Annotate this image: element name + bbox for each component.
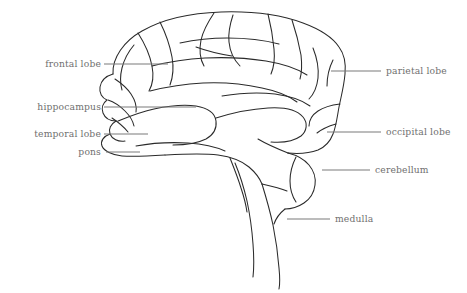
midbrain-detail: [230, 158, 247, 212]
brainstem-posterior-outline: [262, 184, 280, 289]
temporal-lobe-outline: [165, 154, 262, 184]
sulcus-mid-4: [150, 83, 297, 102]
sulcus-mid-3: [196, 47, 232, 56]
brain-diagram: frontal lobehippocampustemporal lobepons…: [0, 0, 467, 293]
occipital-fold-1: [309, 104, 340, 126]
sulcus-mid-5: [222, 93, 310, 106]
pons-ventral-curve: [262, 184, 287, 191]
frontal-fold-2: [108, 100, 134, 126]
temporal-pole-outline: [101, 134, 165, 156]
cerebellum-fold-1: [290, 157, 296, 202]
parietal-fold-1: [309, 48, 318, 99]
label-occipital-lobe: occipital lobe: [386, 126, 451, 137]
label-cerebellum: cerebellum: [375, 164, 429, 175]
label-parietal-lobe: parietal lobe: [386, 65, 447, 76]
medulla-junction: [274, 209, 285, 224]
gyrus-superior-2: [160, 22, 173, 85]
brain-outline-group: [100, 12, 346, 289]
labels-group: frontal lobehippocampustemporal lobepons…: [34, 58, 450, 224]
label-frontal-lobe: frontal lobe: [45, 58, 101, 69]
frontal-fold-4: [121, 45, 135, 90]
insular-arch: [216, 108, 306, 142]
leader-lines-group: [104, 64, 381, 219]
sylvian-fissure: [118, 105, 216, 145]
parietal-fold-2: [327, 60, 333, 86]
frontal-inferior-outline: [109, 121, 125, 141]
gyrus-central: [268, 14, 274, 74]
label-medulla: medulla: [335, 213, 374, 224]
label-hippocampus: hippocampus: [37, 101, 101, 112]
brainstem-anterior-outline: [235, 163, 254, 277]
frontal-pole-outline: [100, 74, 116, 121]
temporal-sulcus: [136, 143, 225, 151]
cerebellum-upper-edge: [258, 139, 288, 153]
sulcus-mid-1: [152, 58, 307, 75]
gyrus-superior-1: [138, 33, 153, 91]
gyrus-postcentral: [292, 20, 302, 79]
label-pons: pons: [78, 146, 101, 157]
label-temporal-lobe: temporal lobe: [34, 128, 101, 139]
